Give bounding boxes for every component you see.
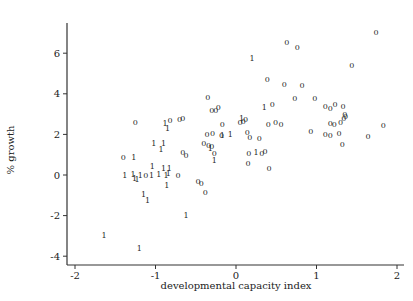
data-point-group-0: 0 xyxy=(220,120,225,129)
data-point-group-1: 1 xyxy=(151,139,156,148)
data-point-group-0: 0 xyxy=(266,164,271,173)
data-point-group-1: 1 xyxy=(145,196,150,205)
data-point-group-0: 0 xyxy=(332,100,337,109)
data-point-group-0: 0 xyxy=(295,43,300,52)
data-point-group-0: 0 xyxy=(328,131,333,140)
data-point-group-1: 1 xyxy=(250,54,255,63)
scatter-chart: -4-20246 -2-1012 00000000000000000000000… xyxy=(0,0,413,301)
data-point-group-1: 1 xyxy=(163,119,168,128)
data-points: 0000000000000000000000000000000000000000… xyxy=(101,28,385,253)
data-point-group-0: 0 xyxy=(374,28,379,37)
data-point-group-1: 1 xyxy=(149,171,154,180)
data-point-group-0: 0 xyxy=(177,115,182,124)
data-point-group-0: 0 xyxy=(299,81,304,90)
x-tick-label: 1 xyxy=(313,270,319,281)
y-tick-label: -2 xyxy=(50,210,60,221)
data-point-group-0: 0 xyxy=(270,100,275,109)
data-point-group-0: 0 xyxy=(343,112,348,121)
data-point-group-0: 0 xyxy=(203,188,208,197)
data-point-group-0: 0 xyxy=(199,179,204,188)
data-point-group-1: 1 xyxy=(262,103,267,112)
x-axis-ticks: -2-1012 xyxy=(70,265,400,281)
data-point-group-1: 1 xyxy=(208,144,213,153)
data-point-group-0: 0 xyxy=(332,120,337,129)
data-point-group-0: 0 xyxy=(121,153,126,162)
data-point-group-0: 0 xyxy=(365,132,370,141)
data-point-group-0: 0 xyxy=(133,118,138,127)
data-point-group-1: 1 xyxy=(131,153,136,162)
data-point-group-1: 1 xyxy=(212,156,217,165)
y-axis-title: % growth xyxy=(5,125,16,174)
x-axis-title: developmental capacity index xyxy=(161,280,312,291)
data-point-group-0: 0 xyxy=(338,118,343,127)
y-tick-label: 0 xyxy=(54,170,60,181)
data-point-group-1: 1 xyxy=(220,131,225,140)
data-point-group-0: 0 xyxy=(175,171,180,180)
y-tick-label: -4 xyxy=(50,251,60,262)
plot-frame xyxy=(67,23,404,265)
data-point-group-1: 1 xyxy=(164,181,169,190)
data-point-group-0: 0 xyxy=(247,133,252,142)
y-axis-ticks: -4-20246 xyxy=(50,48,67,262)
data-point-group-0: 0 xyxy=(292,94,297,103)
data-point-group-0: 0 xyxy=(143,171,148,180)
data-point-group-1: 1 xyxy=(228,130,233,139)
data-point-group-0: 0 xyxy=(216,103,221,112)
data-point-group-1: 1 xyxy=(159,145,164,154)
data-point-group-0: 0 xyxy=(266,120,271,129)
data-point-group-0: 0 xyxy=(262,147,267,156)
data-point-group-0: 0 xyxy=(180,148,185,157)
data-point-group-0: 0 xyxy=(265,75,270,84)
data-point-group-0: 0 xyxy=(349,61,354,70)
y-tick-label: 2 xyxy=(54,129,60,140)
data-point-group-0: 0 xyxy=(257,134,262,143)
data-point-group-1: 1 xyxy=(138,171,143,180)
data-point-group-0: 0 xyxy=(284,38,289,47)
data-point-group-1: 1 xyxy=(254,148,259,157)
data-point-group-0: 0 xyxy=(308,127,313,136)
data-point-group-1: 1 xyxy=(122,171,127,180)
y-tick-label: 4 xyxy=(54,88,60,99)
x-tick-label: -1 xyxy=(151,270,161,281)
y-tick-label: 6 xyxy=(54,48,60,59)
data-point-group-0: 0 xyxy=(312,94,317,103)
data-point-group-0: 0 xyxy=(336,129,341,138)
x-tick-label: 2 xyxy=(394,270,400,281)
data-point-group-0: 0 xyxy=(210,129,215,138)
data-point-group-0: 0 xyxy=(381,121,386,130)
x-tick-label: -2 xyxy=(70,270,80,281)
data-point-group-1: 1 xyxy=(150,162,155,171)
data-point-group-0: 0 xyxy=(205,93,210,102)
data-point-group-0: 0 xyxy=(279,120,284,129)
data-point-group-0: 0 xyxy=(340,140,345,149)
data-point-group-1: 1 xyxy=(101,231,106,240)
data-point-group-0: 0 xyxy=(282,80,287,89)
data-point-group-0: 0 xyxy=(246,149,251,158)
data-point-group-0: 0 xyxy=(273,118,278,127)
data-point-group-1: 1 xyxy=(137,244,142,253)
data-point-group-1: 1 xyxy=(239,114,244,123)
data-point-group-1: 1 xyxy=(166,169,171,178)
data-point-group-1: 1 xyxy=(184,211,189,220)
data-point-group-0: 0 xyxy=(246,159,251,168)
